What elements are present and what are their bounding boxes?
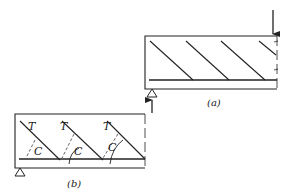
compression-label-3: C <box>108 141 117 154</box>
compression-label-1: C <box>34 145 43 158</box>
beam-crack-diagram: (a) T T T C C C (b) <box>0 0 295 196</box>
diagonal-cracks-a <box>150 41 276 80</box>
beam-a-outline <box>145 36 277 89</box>
caption-a: (a) <box>207 97 221 108</box>
panel-a: (a) <box>145 10 278 113</box>
panel-b: T T T C C C (b) <box>15 114 145 189</box>
support-triangle-b-icon <box>15 168 25 176</box>
tension-label-1: T <box>28 120 37 133</box>
compression-label-2: C <box>74 145 83 158</box>
tension-label-3: T <box>103 120 112 133</box>
caption-b: (b) <box>67 178 81 189</box>
support-triangle-icon <box>147 89 157 97</box>
